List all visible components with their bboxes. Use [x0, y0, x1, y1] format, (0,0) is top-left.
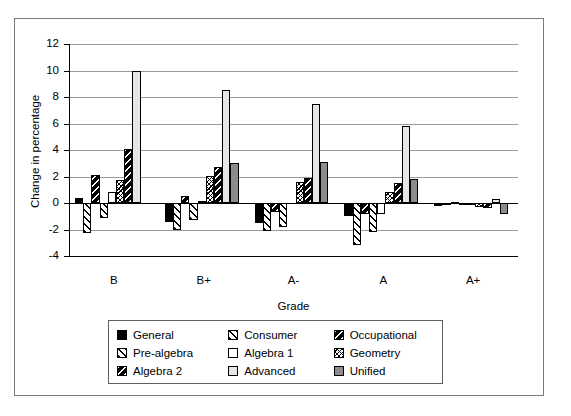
- legend-label: Unified: [350, 365, 386, 377]
- legend-label: Occupational: [350, 329, 417, 341]
- bar: [214, 167, 222, 203]
- bar: [100, 203, 108, 218]
- bar: [385, 192, 393, 203]
- bar: [132, 71, 140, 204]
- bar: [296, 182, 304, 203]
- legend-item-unified[interactable]: Unified: [334, 362, 442, 380]
- legend-label: Consumer: [244, 329, 297, 341]
- legend-label: Pre-algebra: [133, 347, 193, 359]
- y-tick-label: -2: [25, 224, 59, 235]
- legend-item-general[interactable]: General: [117, 326, 228, 344]
- legend-item-occupational[interactable]: Occupational: [334, 326, 442, 344]
- x-tick-label: B+: [174, 274, 234, 286]
- bar: [181, 196, 189, 203]
- zero-line: [69, 203, 518, 204]
- gridline: [69, 230, 518, 231]
- legend-swatch-icon: [228, 366, 238, 376]
- legend-swatch-icon: [117, 330, 127, 340]
- bar: [271, 203, 279, 212]
- bar: [353, 203, 361, 245]
- x-tick-label: A-: [264, 274, 324, 286]
- bar: [83, 203, 91, 233]
- legend-item-consumer[interactable]: Consumer: [228, 326, 333, 344]
- legend-label: Algebra 1: [244, 347, 293, 359]
- bar: [402, 126, 410, 203]
- bar: [320, 162, 328, 203]
- legend-row: GeneralConsumerOccupational: [117, 326, 442, 344]
- legend-swatch-icon: [117, 348, 127, 358]
- bar: [500, 203, 508, 214]
- y-tick-label: 12: [25, 38, 59, 49]
- bar: [377, 203, 385, 214]
- y-tick-label: -4: [25, 250, 59, 261]
- legend-item-geometry[interactable]: Geometry: [334, 344, 442, 362]
- bar: [206, 176, 214, 203]
- bar: [361, 203, 369, 214]
- bar: [230, 163, 238, 203]
- legend-label: Algebra 2: [133, 365, 182, 377]
- legend-item-algebra-1[interactable]: Algebra 1: [228, 344, 333, 362]
- chart-frame: -4-2024681012BB+A-AA+Change in percentag…: [14, 18, 544, 396]
- y-axis: [69, 44, 70, 256]
- y-axis-label: Change in percentage: [29, 95, 41, 208]
- bar: [91, 175, 99, 203]
- y-tick-label: 10: [25, 65, 59, 76]
- chart-legend: GeneralConsumerOccupationalPre-algebraAl…: [108, 320, 443, 384]
- bar: [108, 192, 116, 203]
- legend-label: Advanced: [244, 365, 295, 377]
- x-tick-label: A+: [443, 274, 503, 286]
- bar: [394, 183, 402, 203]
- legend-label: Geometry: [350, 347, 401, 359]
- bar: [255, 203, 263, 223]
- bar: [124, 149, 132, 203]
- legend-label: General: [133, 329, 174, 341]
- bar: [189, 203, 197, 220]
- bar: [116, 180, 124, 203]
- legend-swatch-icon: [334, 330, 344, 340]
- legend-item-pre-algebra[interactable]: Pre-algebra: [117, 344, 228, 362]
- bar: [344, 203, 352, 216]
- bar: [222, 90, 230, 203]
- x-axis-label: Grade: [234, 300, 354, 312]
- bar: [165, 203, 173, 222]
- legend-swatch-icon: [334, 366, 344, 376]
- chart-screenshot: -4-2024681012BB+A-AA+Change in percentag…: [0, 0, 571, 416]
- gridline: [69, 44, 518, 45]
- bar: [279, 203, 287, 227]
- x-tick-label: B: [84, 274, 144, 286]
- bar: [304, 178, 312, 203]
- bar: [410, 179, 418, 203]
- x-tick-label: A: [353, 274, 413, 286]
- legend-item-advanced[interactable]: Advanced: [228, 362, 333, 380]
- bar: [173, 203, 181, 230]
- legend-row: Algebra 2AdvancedUnified: [117, 362, 442, 380]
- bar: [369, 203, 377, 232]
- bar: [263, 203, 271, 231]
- legend-swatch-icon: [228, 348, 238, 358]
- legend-swatch-icon: [334, 348, 344, 358]
- bar: [312, 104, 320, 203]
- legend-row: Pre-algebraAlgebra 1Geometry: [117, 344, 442, 362]
- legend-swatch-icon: [228, 330, 238, 340]
- legend-swatch-icon: [117, 366, 127, 376]
- legend-item-algebra-2[interactable]: Algebra 2: [117, 362, 228, 380]
- gridline: [69, 256, 518, 257]
- y-tick-mark: [64, 256, 69, 257]
